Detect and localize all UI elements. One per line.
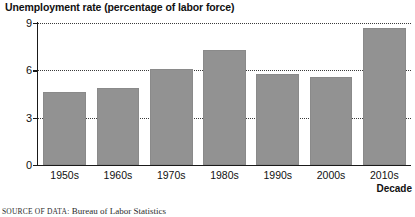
x-tick-label: 1980s [198,169,251,181]
x-tick-label: 1990s [251,169,304,181]
y-tick-mark [33,165,38,166]
y-tick-label: 6 [16,65,32,76]
y-tick-label: 3 [16,112,32,123]
source-note: SOURCE OF DATA: Bureau of Labor Statisti… [2,206,166,216]
bar [43,92,86,165]
bar [310,77,353,165]
x-tick-label: 2000s [304,169,357,181]
bar [256,74,299,166]
bar [203,50,246,165]
bar [150,69,193,165]
x-tick-label: 1950s [38,169,91,181]
bar [363,28,406,165]
source-note-prefix: SOURCE OF DATA: [2,207,69,216]
plot-area [38,23,411,165]
x-axis-title: Decade [376,183,412,194]
x-tick-label: 2010s [358,169,411,181]
gridline [38,23,411,24]
unemployment-rate-bar-chart: Unemployment rate (percentage of labor f… [0,0,415,217]
y-tick-label: 0 [16,160,32,171]
x-tick-label: 1960s [91,169,144,181]
source-note-text: Bureau of Labor Statistics [72,206,166,216]
chart-title: Unemployment rate (percentage of labor f… [5,1,234,13]
bar [97,88,140,165]
y-tick-label: 9 [16,18,32,29]
x-tick-label: 1970s [145,169,198,181]
